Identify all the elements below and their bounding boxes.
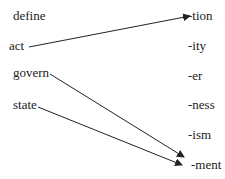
word-act: act <box>9 39 24 53</box>
suffix-ism: -ism <box>188 128 211 142</box>
suffix-ment: -ment <box>191 158 221 172</box>
arrow-act-to-tion <box>29 16 190 47</box>
arrow-state-to-ment <box>38 107 182 165</box>
arrow-layer <box>0 0 225 179</box>
word-define: define <box>13 9 45 23</box>
word-govern: govern <box>13 66 49 80</box>
word-state: state <box>13 98 37 112</box>
suffix-tion: -tion <box>188 9 213 23</box>
suffix-ness: -ness <box>188 98 215 112</box>
suffix-er: -er <box>188 69 202 83</box>
suffix-ity: -ity <box>188 39 206 53</box>
arrow-govern-to-ment <box>50 74 184 157</box>
